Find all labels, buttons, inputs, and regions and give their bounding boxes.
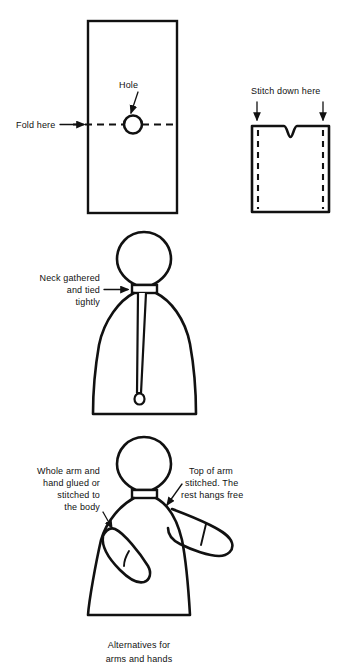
left-arm-label-line2: hand glued or (43, 478, 100, 488)
caption-line1: Alternatives for (108, 640, 170, 650)
folded-piece-outline (252, 126, 329, 212)
body-center-strip (137, 293, 146, 393)
arms-right-arm (168, 509, 232, 556)
right-arm-label-line1: Top of arm (189, 466, 233, 476)
body-neck-band (132, 285, 157, 293)
instruction-diagram: Fold here Hole Stitch down here (0, 0, 349, 670)
left-arm-label-line4: the body (64, 502, 100, 512)
neck-label-line2: and tied (67, 285, 100, 295)
arms-head (117, 437, 171, 490)
arms-neck-band (132, 490, 157, 498)
figure-body: Neck gathered and tied tightly (40, 232, 197, 414)
body-head (117, 232, 171, 285)
figure-fabric-rectangle: Fold here Hole (16, 21, 177, 213)
arms-right-wrist-line (201, 524, 206, 545)
left-arm-label-line3: stitched to (57, 490, 100, 500)
hole-label: Hole (119, 80, 138, 90)
neck-label-line3: tightly (75, 297, 100, 307)
caption-line2: arms and hands (106, 654, 173, 664)
left-arm-label-line1: Whole arm and (37, 466, 100, 476)
fold-here-label: Fold here (16, 120, 55, 130)
figure-folded-piece: Stitch down here (251, 86, 329, 212)
arms-skirt (88, 498, 190, 615)
neck-label-line1: Neck gathered (40, 273, 101, 283)
figure-caption: Alternatives for arms and hands (106, 640, 173, 664)
right-arm-label-line3: rest hangs free (181, 490, 243, 500)
figure-arms: Whole arm and hand glued or stitched to … (37, 437, 243, 615)
hole-circle (124, 116, 142, 134)
stitch-down-here-label: Stitch down here (251, 86, 320, 96)
right-arm-label-arrow (167, 484, 182, 505)
right-arm-label-line2: stitched. The (185, 478, 238, 488)
diagram-canvas: Fold here Hole Stitch down here (0, 0, 349, 670)
body-strip-end-loop (135, 394, 145, 405)
arms-left-wrist-line (124, 551, 129, 566)
